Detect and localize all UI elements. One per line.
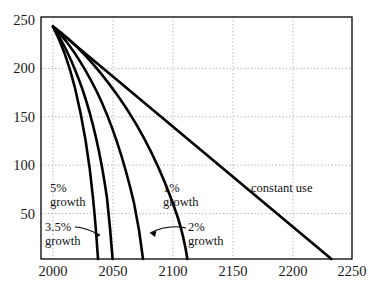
annotation-35pct-line2: growth xyxy=(45,234,81,248)
x-tick-label-2200: 2200 xyxy=(279,263,308,279)
chart-container: 250 200 150 100 50 2000 2050 2100 2150 2… xyxy=(0,0,374,294)
x-tick-label-2100: 2100 xyxy=(159,263,188,279)
y-tick-label-150: 150 xyxy=(13,109,35,125)
annotation-35pct-line1: 3.5% xyxy=(45,220,71,234)
resource-depletion-line-chart: 250 200 150 100 50 2000 2050 2100 2150 2… xyxy=(0,0,374,294)
y-tick-label-200: 200 xyxy=(13,60,35,76)
y-tick-label-100: 100 xyxy=(13,157,35,173)
x-tick-label-2250: 2250 xyxy=(338,263,367,279)
annotation-2pct-line1: 2% xyxy=(188,220,205,234)
annotation-5pct-line1: 5% xyxy=(50,181,67,195)
x-tick-label-2150: 2150 xyxy=(219,263,248,279)
annotation-1pct-line1: 1% xyxy=(163,181,180,195)
x-tick-label-2000: 2000 xyxy=(39,263,68,279)
annotation-constant-use: constant use xyxy=(251,181,313,195)
annotation-constant-use-label: constant use xyxy=(251,181,313,195)
y-tick-label-50: 50 xyxy=(21,206,36,222)
x-tick-label-2050: 2050 xyxy=(99,263,128,279)
annotation-5pct-line2: growth xyxy=(50,195,86,209)
annotation-1pct-line2: growth xyxy=(163,195,199,209)
annotation-2pct-line2: growth xyxy=(188,234,224,248)
y-tick-label-250: 250 xyxy=(13,12,35,28)
